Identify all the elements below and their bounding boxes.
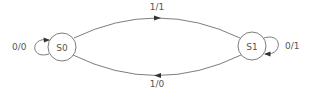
- state-s1: S1: [238, 32, 266, 60]
- transition-label-s0-s1: 1/1: [150, 2, 164, 12]
- state-s1-label: S1: [246, 42, 257, 52]
- transition-label-s1-s0: 1/0: [150, 79, 165, 88]
- transition-label-s0-s0: 0/0: [12, 42, 27, 52]
- transition-s0-s1: [74, 18, 240, 38]
- transition-label-s1-s1: 0/1: [285, 41, 299, 51]
- arrow-s0-s1: [154, 16, 161, 21]
- state-s0-label: S0: [56, 43, 68, 53]
- state-s0: S0: [48, 33, 76, 61]
- arrow-s1-s0: [154, 73, 161, 78]
- state-diagram: 1/1 1/0 0/0 0/1 S0 S1: [0, 0, 315, 88]
- self-loop-s0: [35, 40, 49, 55]
- transition-s1-s0: [73, 55, 241, 76]
